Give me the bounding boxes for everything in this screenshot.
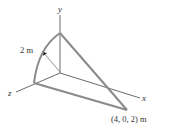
- base-to-tip-edge: [34, 83, 127, 110]
- radius-arrow: [43, 52, 60, 72]
- y-axis-label: y: [57, 4, 62, 14]
- x-axis-label: x: [141, 93, 146, 103]
- apex-to-tip-edge: [60, 33, 127, 110]
- cone-diagram: y z x 2 m (4, 0, 2) m: [0, 0, 170, 132]
- radius-label: 2 m: [20, 45, 33, 55]
- z-axis-label: z: [7, 88, 12, 98]
- base-arc: [34, 33, 60, 83]
- point-coordinate-label: (4, 0, 2) m: [111, 114, 147, 124]
